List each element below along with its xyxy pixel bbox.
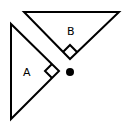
label-b: B	[67, 25, 75, 38]
center-point	[66, 68, 74, 76]
diagram-canvas: B A	[0, 0, 129, 126]
diagram-svg: B A	[0, 0, 129, 126]
label-a: A	[23, 66, 31, 79]
